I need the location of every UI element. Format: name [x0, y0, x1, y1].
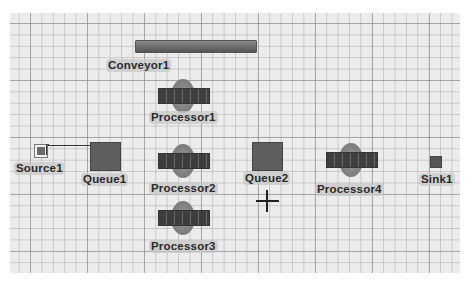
processor1-label: Processor1 [149, 111, 218, 124]
processor2-label: Processor2 [149, 182, 218, 195]
sink1-label: Sink1 [419, 173, 455, 186]
sink1-object[interactable] [430, 156, 442, 168]
source1-label: Source1 [14, 162, 65, 175]
crosshair-vertical [266, 190, 268, 212]
processor-bar-icon [158, 153, 210, 169]
processor3-object[interactable] [158, 201, 208, 235]
conveyor1-object[interactable] [135, 40, 257, 53]
queue1-object[interactable] [90, 142, 121, 171]
connector-source1-queue1 [48, 145, 90, 146]
processor4-object[interactable] [326, 143, 376, 177]
processor2-object[interactable] [158, 144, 208, 178]
processor4-label: Processor4 [315, 183, 384, 196]
processor-bar-icon [326, 152, 378, 168]
queue2-object[interactable] [252, 142, 283, 171]
conveyor1-label: Conveyor1 [106, 59, 171, 72]
processor-bar-icon [158, 88, 210, 104]
queue2-label: Queue2 [243, 172, 290, 185]
processor1-object[interactable] [158, 79, 208, 113]
processor-bar-icon [158, 210, 210, 226]
queue1-label: Queue1 [81, 173, 128, 186]
processor3-label: Processor3 [149, 240, 218, 253]
